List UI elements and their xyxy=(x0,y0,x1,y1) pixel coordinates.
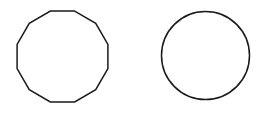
shapes-figure xyxy=(0,0,269,114)
figure-canvas xyxy=(0,0,269,114)
